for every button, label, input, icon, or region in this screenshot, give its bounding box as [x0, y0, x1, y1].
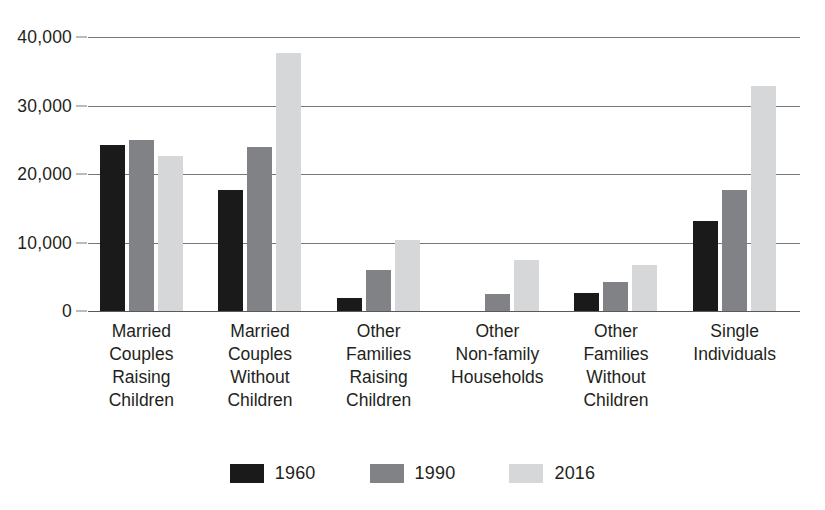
bar [395, 240, 420, 311]
bar [722, 190, 747, 311]
category-label-line: Other [438, 320, 557, 343]
legend-item[interactable]: 1960 [230, 463, 316, 484]
category-label-line: Other [319, 320, 438, 343]
bar [337, 298, 362, 311]
bar [751, 86, 776, 311]
y-axis-tick-mark [76, 242, 87, 243]
x-axis-category-label: OtherNon-familyHouseholds [438, 320, 557, 389]
bar-group [325, 37, 444, 311]
legend-item[interactable]: 2016 [509, 463, 595, 484]
category-label-line: Children [201, 389, 320, 412]
x-axis-category-label: SingleIndividuals [675, 320, 794, 366]
bar [574, 293, 599, 311]
category-label-line: Without [557, 366, 676, 389]
axis-baseline [88, 311, 800, 312]
x-axis-category-label: OtherFamiliesWithoutChildren [557, 320, 676, 412]
bar [603, 282, 628, 311]
category-label-line: Individuals [675, 343, 794, 366]
bar [100, 145, 125, 311]
y-axis-tick-label: 0 [62, 301, 72, 322]
bar-group [681, 37, 800, 311]
category-label-line: Single [675, 320, 794, 343]
bar [514, 260, 539, 311]
x-axis-category-label: MarriedCouplesRaisingChildren [82, 320, 201, 412]
legend-label: 2016 [554, 463, 595, 484]
bar [632, 265, 657, 311]
y-axis-tick-label: 10,000 [17, 232, 72, 253]
x-axis-category-label: OtherFamiliesRaisingChildren [319, 320, 438, 412]
bar [129, 140, 154, 311]
bar [158, 156, 183, 311]
category-label-line: Raising [319, 366, 438, 389]
bar [693, 221, 718, 311]
chart-legend: 196019902016 [0, 463, 825, 484]
bar [276, 53, 301, 311]
bar-group [563, 37, 682, 311]
legend-label: 1960 [275, 463, 316, 484]
bar-group [444, 37, 563, 311]
legend-item[interactable]: 1990 [370, 463, 456, 484]
x-axis-category-label: MarriedCouplesWithoutChildren [201, 320, 320, 412]
y-axis-tick-mark [76, 105, 87, 106]
bar [247, 147, 272, 311]
plot-area [88, 37, 800, 311]
y-axis-tick-label: 40,000 [17, 27, 72, 48]
legend-swatch [370, 464, 404, 483]
category-label-line: Non-family [438, 343, 557, 366]
category-label-line: Without [201, 366, 320, 389]
category-label-line: Children [557, 389, 676, 412]
category-label-line: Families [319, 343, 438, 366]
y-axis-tick-mark [76, 311, 87, 312]
y-axis-tick-label: 30,000 [17, 95, 72, 116]
category-label-line: Children [82, 389, 201, 412]
bar-chart: 40,00030,00020,00010,0000 MarriedCouples… [0, 0, 825, 510]
y-axis-tick-label: 20,000 [17, 164, 72, 185]
category-label-line: Couples [201, 343, 320, 366]
bar [366, 270, 391, 311]
category-label-line: Couples [82, 343, 201, 366]
category-label-line: Children [319, 389, 438, 412]
y-axis-tick-mark [76, 174, 87, 175]
bar-group [88, 37, 207, 311]
category-label-line: Families [557, 343, 676, 366]
bar [485, 294, 510, 311]
legend-label: 1990 [415, 463, 456, 484]
bar [218, 190, 243, 311]
legend-swatch [509, 464, 543, 483]
category-label-line: Married [201, 320, 320, 343]
bar-group [207, 37, 326, 311]
category-label-line: Raising [82, 366, 201, 389]
y-axis-tick-mark [76, 37, 87, 38]
category-label-line: Married [82, 320, 201, 343]
legend-swatch [230, 464, 264, 483]
category-label-line: Other [557, 320, 676, 343]
category-label-line: Households [438, 366, 557, 389]
